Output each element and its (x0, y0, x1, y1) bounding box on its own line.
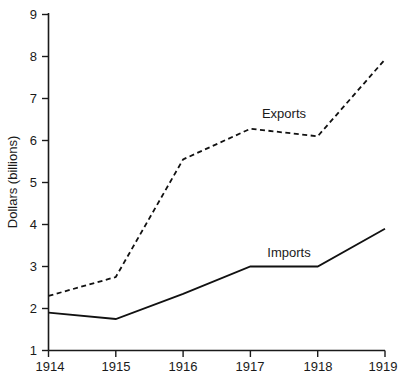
y-tick-label-7: 7 (30, 91, 37, 106)
y-tick-label-2: 2 (30, 301, 37, 316)
x-tick-label-1916: 1916 (169, 359, 198, 374)
y-tick-label-5: 5 (30, 175, 37, 190)
x-axis-ticks (49, 351, 386, 358)
y-axis-ticks (42, 15, 49, 351)
y-tick-label-1: 1 (30, 343, 37, 358)
y-axis-title: Dollars (billions) (5, 136, 20, 228)
y-tick-label-8: 8 (30, 49, 37, 64)
y-tick-label-9: 9 (30, 7, 37, 22)
y-tick-label-4: 4 (30, 217, 37, 232)
x-tick-label-1919: 1919 (369, 359, 398, 374)
y-tick-label-6: 6 (30, 133, 37, 148)
y-tick-label-3: 3 (30, 259, 37, 274)
x-tick-label-1918: 1918 (304, 359, 333, 374)
x-tick-label-1914: 1914 (36, 359, 65, 374)
series-line-imports (49, 229, 386, 319)
chart-canvas: 1 2 3 4 5 6 7 8 9 1914 1915 1916 1917 19… (0, 0, 400, 378)
x-tick-label-1915: 1915 (102, 359, 131, 374)
y-axis-tick-labels: 1 2 3 4 5 6 7 8 9 (30, 7, 37, 358)
line-chart: 1 2 3 4 5 6 7 8 9 1914 1915 1916 1917 19… (0, 0, 400, 378)
series-label-exports: Exports (262, 106, 307, 121)
x-tick-label-1917: 1917 (236, 359, 265, 374)
x-axis-tick-labels: 1914 1915 1916 1917 1918 1919 (36, 359, 398, 374)
series-line-exports (49, 59, 386, 295)
series-label-imports: Imports (267, 245, 311, 260)
